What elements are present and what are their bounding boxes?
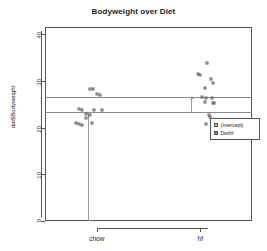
data-point	[205, 123, 208, 126]
data-point	[100, 109, 103, 112]
y-tick-label: 20	[36, 126, 42, 133]
y-tick: 10	[0, 174, 45, 175]
y-tick-label: 30	[36, 79, 42, 86]
reference-line-intercept	[45, 112, 252, 113]
y-axis-line	[41, 31, 42, 217]
legend-label: (Intercept)	[221, 123, 244, 128]
diethf-arrow-head	[190, 96, 194, 99]
data-point	[81, 123, 84, 126]
legend-item[interactable]: Diethf	[214, 129, 256, 137]
data-point	[81, 109, 84, 112]
chart-figure: Bodyweight over Diet dat$Bodyweight 0102…	[0, 0, 267, 251]
data-point	[199, 73, 202, 76]
y-tick: 30	[0, 81, 45, 82]
x-tick-mark	[200, 228, 201, 232]
x-axis-line	[98, 228, 208, 229]
data-point	[98, 93, 101, 96]
legend-swatch-icon	[214, 123, 218, 127]
y-tick-label: 40	[36, 32, 42, 39]
data-point	[91, 88, 94, 91]
y-tick: 0	[0, 221, 45, 222]
reference-line-intercept-plus-effect	[45, 97, 252, 98]
legend-swatch-icon	[214, 131, 218, 135]
x-tick-mark	[97, 228, 98, 232]
page-title: Bodyweight over Diet	[0, 7, 267, 16]
y-tick: 20	[0, 128, 45, 129]
data-point	[211, 81, 214, 84]
x-tick-label: chow	[89, 235, 104, 242]
y-tick-label: 10	[36, 172, 42, 179]
data-point	[210, 96, 213, 99]
data-point	[90, 121, 93, 124]
legend[interactable]: (Intercept)Diethf	[210, 118, 260, 140]
data-point	[212, 102, 215, 105]
x-tick-label: hf	[198, 235, 203, 242]
legend-label: Diethf	[221, 131, 234, 136]
y-tick: 40	[0, 34, 45, 35]
data-point	[92, 108, 95, 111]
data-point	[206, 61, 209, 64]
intercept-arrow-shaft	[88, 112, 89, 221]
diethf-arrow-shaft	[191, 97, 192, 111]
data-point	[88, 113, 91, 116]
data-point	[204, 86, 207, 89]
y-axis-title: dat$Bodyweight	[10, 67, 16, 147]
legend-item[interactable]: (Intercept)	[214, 121, 256, 129]
data-point	[201, 95, 204, 98]
data-point	[85, 117, 88, 120]
data-point	[204, 101, 207, 104]
data-point	[205, 97, 208, 100]
y-tick-label: 0	[36, 219, 42, 222]
